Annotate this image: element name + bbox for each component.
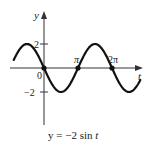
graph-caption: y = −2 sin t [48, 129, 99, 141]
y-axis-arrow-icon [41, 11, 47, 19]
zero-crossing-point [109, 65, 114, 70]
zero-crossing-point [41, 65, 46, 70]
y-axis-label: y [33, 9, 39, 21]
y-tick-label-neg2: −2 [24, 87, 35, 98]
y-tick-label-2: 2 [34, 39, 39, 50]
zero-crossing-point [75, 65, 80, 70]
caption-variable: t [95, 129, 99, 141]
two-pi-label: 2π [108, 54, 118, 65]
sine-graph-figure: y t 0 π 2π 2 −2 y = −2 sin t [0, 0, 152, 148]
origin-label: 0 [37, 70, 42, 81]
caption-expression: y = −2 sin [48, 129, 95, 141]
